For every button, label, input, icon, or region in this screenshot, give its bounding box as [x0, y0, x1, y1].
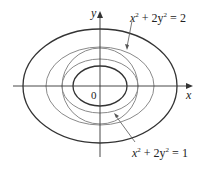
equation-label-lower: x2 + 2y2 = 1 [131, 146, 188, 160]
x-axis-label: x [185, 88, 192, 102]
leader-arrow-upper-icon [125, 44, 129, 50]
y-axis-label: y [90, 6, 97, 20]
equation-label-upper: x2 + 2y2 = 2 [129, 11, 186, 25]
leader-arrow-lower-icon [114, 113, 119, 118]
origin-label: 0 [91, 89, 97, 101]
y-axis-arrow-icon [97, 11, 103, 18]
leader-line-lower [116, 116, 135, 142]
level-curves-diagram: y x 0 x2 + 2y2 = 2 x2 + 2y2 = 1 [0, 0, 201, 171]
